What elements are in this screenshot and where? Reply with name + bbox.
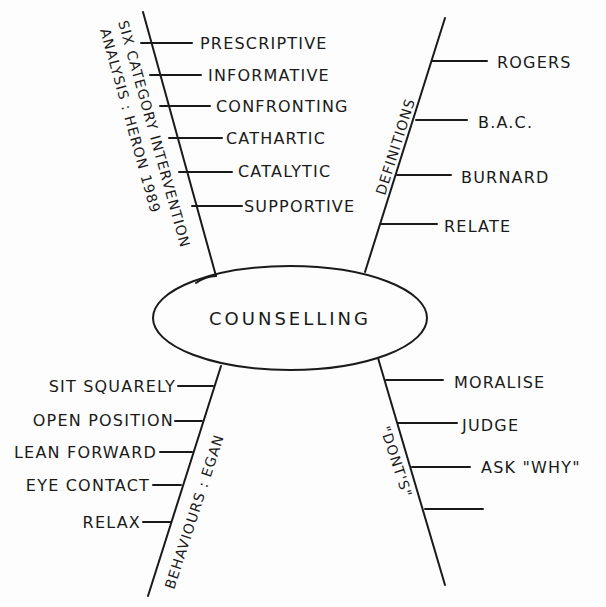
definitions-item-label: RELATE xyxy=(444,217,511,236)
heron-item-label: CONFRONTING xyxy=(216,97,349,116)
egan-item-label: SIT SQUARELY xyxy=(49,377,176,396)
egan-item: EYE CONTACT xyxy=(26,476,181,495)
egan-item-label: OPEN POSITION xyxy=(33,411,174,430)
donts-item: JUDGE xyxy=(398,416,519,435)
definitions-item-label: B.A.C. xyxy=(478,113,533,132)
heron-item: INFORMATIVE xyxy=(150,66,330,85)
egan-title: BEHAVIOURS : EGAN xyxy=(162,432,227,591)
heron-item: CATALYTIC xyxy=(179,162,331,181)
egan-item: SIT SQUARELY xyxy=(49,377,213,396)
branch-donts-line xyxy=(378,358,445,585)
mind-map: COUNSELLING PRESCRIPTIVE INFORMATIVE CON… xyxy=(0,0,606,607)
definitions-item-label: ROGERS xyxy=(497,53,572,72)
branch-definitions: ROGERS B.A.C. BURNARD RELATE DEFINITIONS xyxy=(365,18,572,272)
heron-item: SUPPORTIVE xyxy=(192,197,355,216)
branch-donts: MORALISE JUDGE ASK "WHY" "DONT'S" xyxy=(377,358,581,585)
branch-egan: SIT SQUARELY OPEN POSITION LEAN FORWARD … xyxy=(14,366,227,596)
mind-map-canvas: COUNSELLING PRESCRIPTIVE INFORMATIVE CON… xyxy=(0,0,606,607)
heron-item: PRESCRIPTIVE xyxy=(141,34,328,53)
definitions-item: BURNARD xyxy=(397,168,550,187)
donts-item-label: ASK "WHY" xyxy=(481,458,581,477)
definitions-item: ROGERS xyxy=(432,53,572,72)
donts-item-label: JUDGE xyxy=(461,416,519,435)
heron-item-label: PRESCRIPTIVE xyxy=(200,34,328,53)
donts-item: MORALISE xyxy=(386,373,545,392)
egan-item: LEAN FORWARD xyxy=(14,443,192,462)
heron-item: CONFRONTING xyxy=(160,97,349,116)
donts-item: ASK "WHY" xyxy=(412,458,581,477)
egan-item: RELAX xyxy=(83,513,171,532)
definitions-item: RELATE xyxy=(381,217,511,236)
egan-item-label: LEAN FORWARD xyxy=(14,443,157,462)
center-label: COUNSELLING xyxy=(209,308,371,329)
branch-heron: PRESCRIPTIVE INFORMATIVE CONFRONTING CAT… xyxy=(97,12,355,283)
definitions-item: B.A.C. xyxy=(416,113,533,132)
branch-definitions-line xyxy=(365,18,445,272)
egan-item: OPEN POSITION xyxy=(33,411,202,430)
egan-item-label: EYE CONTACT xyxy=(26,476,150,495)
definitions-item-label: BURNARD xyxy=(461,168,550,187)
heron-item: CATHARTIC xyxy=(169,129,326,148)
heron-item-label: INFORMATIVE xyxy=(208,66,330,85)
heron-item-label: CATHARTIC xyxy=(226,129,326,148)
egan-item-label: RELAX xyxy=(83,513,141,532)
heron-item-label: SUPPORTIVE xyxy=(244,197,355,216)
definitions-title: DEFINITIONS xyxy=(373,96,418,197)
donts-item-label: MORALISE xyxy=(454,373,545,392)
heron-item-label: CATALYTIC xyxy=(238,162,331,181)
